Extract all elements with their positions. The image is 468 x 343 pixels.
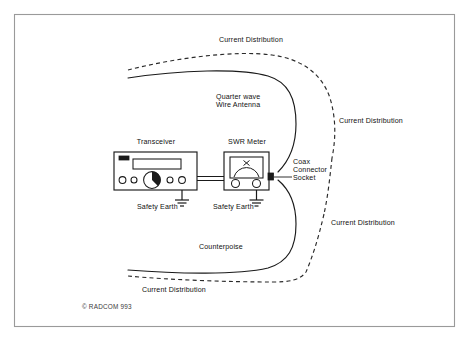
label-current-distribution-bottom: Current Distribution	[142, 286, 252, 294]
label-current-distribution-right-lower: Current Distribution	[331, 219, 441, 227]
label-current-distribution-top: Current Distribution	[196, 36, 306, 44]
transceiver-knob-4	[179, 177, 186, 184]
label-safety-earth-transceiver: Safety Earth	[137, 203, 197, 211]
coax-connector-socket-icon	[268, 173, 274, 180]
label-quarter-wave-wire-antenna-line2: Wire Antenna	[216, 101, 306, 109]
transceiver-indicator-icon	[119, 156, 129, 160]
label-current-distribution-right-upper: Current Distribution	[339, 117, 449, 125]
label-copyright-credit: © RADCOM 993	[82, 303, 172, 311]
label-counterpoise: Counterpoise	[199, 243, 269, 251]
swr-meter-knob-1	[232, 180, 240, 188]
label-transceiver: Transceiver	[123, 138, 189, 146]
transceiver-knob-3	[167, 177, 173, 183]
transceiver-knob-1	[119, 177, 126, 184]
label-coax-connector-socket-line3: Socket	[293, 174, 353, 182]
swr-meter-knob-2	[253, 180, 261, 188]
figure-root: Current Distribution Current Distributio…	[0, 0, 468, 343]
transceiver-knob-2	[131, 177, 137, 183]
label-swr-meter: SWR Meter	[219, 138, 275, 146]
label-safety-earth-swr-meter: Safety Earth	[213, 203, 273, 211]
transceiver-display-panel	[133, 159, 181, 169]
